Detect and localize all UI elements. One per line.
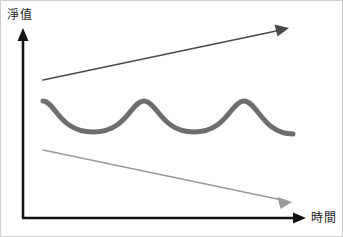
wave-curve	[43, 101, 293, 134]
y-axis-arrowhead	[18, 28, 29, 41]
x-axis-arrowhead	[293, 213, 306, 224]
axes-group	[18, 28, 307, 224]
upper-trend-line	[43, 30, 281, 80]
x-axis-label: 時間	[311, 212, 336, 224]
chart-figure: 淨值 時間	[0, 0, 343, 237]
lower-trend-arrow	[43, 150, 292, 209]
upper-trend-arrow	[43, 25, 289, 81]
chart-canvas	[1, 1, 343, 237]
upper-trend-arrowhead	[275, 25, 290, 37]
lower-trend-line	[43, 150, 282, 200]
lower-trend-arrowhead	[278, 197, 293, 209]
y-axis-label: 淨值	[7, 9, 32, 21]
